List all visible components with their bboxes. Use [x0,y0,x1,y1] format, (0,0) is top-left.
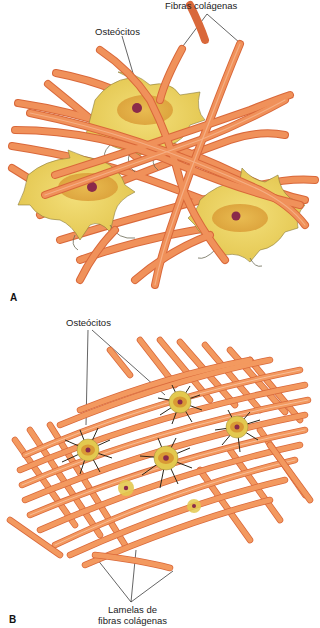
label-lamelas-line2: fibras colágenas [90,615,175,626]
collagen-lamella-front [10,350,310,568]
leader-lines [86,330,173,602]
collagen-lamella-layer [15,340,305,545]
panel-letter-b: B [9,614,16,625]
osteocytes-b [62,385,260,513]
collagen-lamella-layer [20,360,308,565]
label-lamelas-line1: Lamelas de [95,604,170,615]
panel-letter-a: A [10,292,17,303]
panel-a-illustration [0,0,320,300]
label-osteocitos-a: Osteócitos [95,26,140,37]
label-osteocitos-b: Osteócitos [66,317,111,328]
label-fibras-colagenas-a: Fibras colágenas [165,0,237,11]
